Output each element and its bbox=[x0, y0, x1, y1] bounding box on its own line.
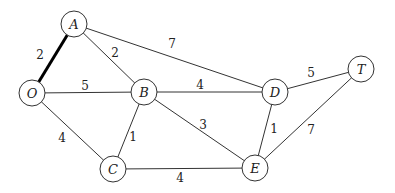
node-label: E bbox=[249, 161, 260, 176]
edge-weight-a-d: 7 bbox=[168, 37, 176, 51]
node-label: O bbox=[27, 86, 38, 101]
node-o: O bbox=[19, 80, 45, 106]
node-c: C bbox=[100, 156, 126, 182]
node-a: A bbox=[61, 11, 87, 37]
edge-labels-layer: 227545131744 bbox=[36, 37, 315, 185]
edge-weight-b-e: 3 bbox=[199, 118, 207, 132]
graph-canvas: 227545131744 AOBDTCE bbox=[0, 0, 395, 193]
edge-weight-c-e: 4 bbox=[176, 171, 184, 185]
node-label: D bbox=[269, 85, 281, 100]
node-d: D bbox=[262, 79, 288, 105]
node-b: B bbox=[131, 79, 157, 105]
edge-weight-b-d: 4 bbox=[196, 78, 204, 92]
edge-weight-o-b: 5 bbox=[81, 79, 89, 93]
edge-weight-e-t: 7 bbox=[307, 123, 315, 137]
node-label: T bbox=[357, 62, 367, 77]
edges-layer bbox=[32, 24, 361, 169]
node-label: B bbox=[138, 85, 149, 100]
edge-c-e bbox=[113, 168, 255, 169]
edge-o-c bbox=[32, 93, 113, 169]
node-label: A bbox=[68, 17, 78, 32]
edge-weight-b-c: 1 bbox=[129, 130, 137, 144]
nodes-layer: AOBDTCE bbox=[19, 11, 374, 182]
edge-weight-d-t: 5 bbox=[307, 66, 315, 80]
node-e: E bbox=[242, 155, 268, 181]
node-label: C bbox=[108, 162, 118, 177]
node-t: T bbox=[348, 56, 374, 82]
edge-weight-d-e: 1 bbox=[270, 122, 278, 136]
edge-weight-o-c: 4 bbox=[58, 131, 66, 145]
edge-weight-o-a: 2 bbox=[36, 48, 44, 62]
edge-weight-a-b: 2 bbox=[111, 46, 119, 60]
edge-a-d bbox=[74, 24, 275, 92]
